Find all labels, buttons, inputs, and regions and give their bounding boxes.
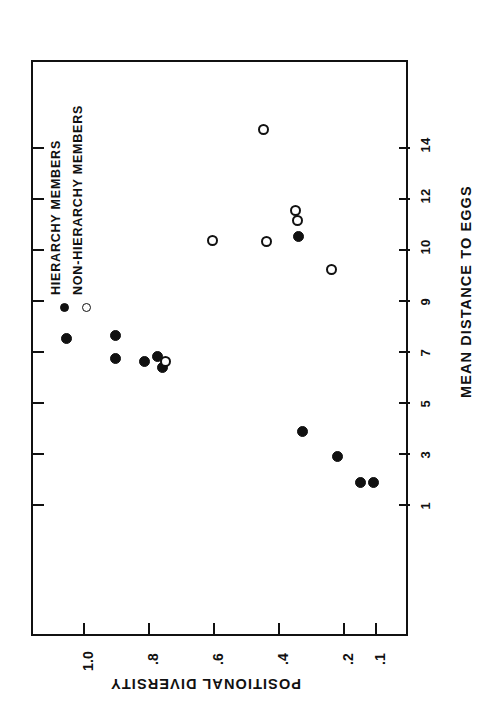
x-tick-label-0-2: .2 bbox=[340, 653, 356, 665]
data-point-hierarchy-member bbox=[297, 426, 308, 437]
data-point-hierarchy-member bbox=[332, 451, 343, 462]
data-point-non-hierarchy-member bbox=[207, 235, 218, 246]
x-tick-label-1-0: 1.0 bbox=[80, 651, 96, 671]
y-tick-label-7: 7 bbox=[418, 349, 433, 356]
data-point-hierarchy-member bbox=[61, 333, 72, 344]
data-point-hierarchy-member bbox=[139, 356, 150, 367]
data-point-hierarchy-member bbox=[110, 330, 121, 341]
data-points-layer bbox=[33, 62, 406, 634]
x-tick-label-0-1: .1 bbox=[372, 653, 388, 665]
y-tick-label-3: 3 bbox=[418, 451, 433, 458]
data-point-non-hierarchy-member bbox=[258, 124, 269, 135]
y-tick-label-12: 12 bbox=[418, 189, 433, 204]
y-tick-label-10: 10 bbox=[418, 240, 433, 255]
data-point-hierarchy-member bbox=[293, 231, 304, 242]
y-tick-label-14: 14 bbox=[418, 138, 433, 153]
x-axis-title: POSITIONAL DIVERSITY bbox=[110, 676, 301, 692]
data-point-hierarchy-member bbox=[368, 477, 379, 488]
x-tick-label-0-8: .8 bbox=[145, 653, 161, 665]
y-tick-label-5: 5 bbox=[418, 400, 433, 407]
data-point-non-hierarchy-member bbox=[292, 215, 303, 226]
data-point-hierarchy-member bbox=[355, 477, 366, 488]
data-point-hierarchy-member bbox=[110, 353, 121, 364]
x-tick-label-0-4: .4 bbox=[275, 653, 291, 665]
y-axis-title: MEAN DISTANCE TO EGGS bbox=[458, 185, 474, 398]
data-point-non-hierarchy-member bbox=[326, 264, 337, 275]
scatter-plot-figure: HIERARCHY MEMBERS NON-HIERARCHY MEMBERS … bbox=[0, 0, 483, 701]
y-tick-label-9: 9 bbox=[418, 298, 433, 305]
x-tick-label-0-6: .6 bbox=[210, 653, 226, 665]
plot-area: HIERARCHY MEMBERS NON-HIERARCHY MEMBERS bbox=[31, 60, 408, 636]
y-tick-label-1: 1 bbox=[418, 502, 433, 509]
data-point-non-hierarchy-member bbox=[261, 236, 272, 247]
data-point-non-hierarchy-member bbox=[160, 356, 171, 367]
